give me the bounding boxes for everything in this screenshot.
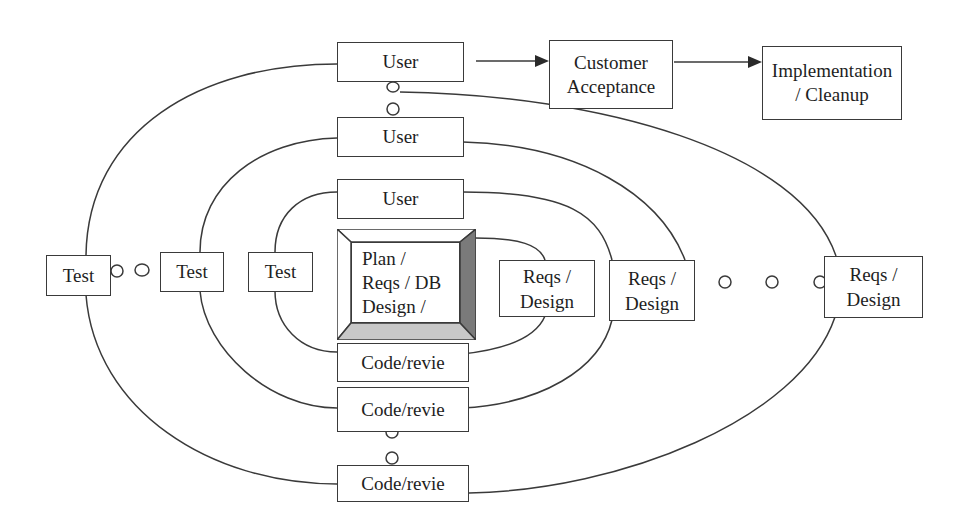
code-review-label: Code/revie bbox=[361, 473, 444, 495]
test-box-inner: Test bbox=[248, 252, 313, 292]
code-review-box-middle: Code/revie bbox=[337, 387, 469, 432]
user-box-middle: User bbox=[337, 117, 464, 157]
implementation-cleanup-label: Implementation / Cleanup bbox=[772, 59, 892, 107]
test-label: Test bbox=[265, 261, 296, 283]
customer-acceptance-label: Customer Acceptance bbox=[567, 51, 656, 99]
plan-reqs-db-design-core-box: Plan / Reqs / DB Design / bbox=[337, 229, 476, 340]
test-label: Test bbox=[176, 261, 207, 283]
implementation-cleanup-box: Implementation / Cleanup bbox=[762, 46, 902, 120]
code-review-box-outer: Code/revie bbox=[337, 465, 469, 502]
reqs-design-box-outer: Reqs / Design bbox=[824, 256, 923, 318]
reqs-design-box-inner: Reqs / Design bbox=[499, 260, 595, 317]
test-box-middle: Test bbox=[160, 252, 224, 292]
test-label: Test bbox=[63, 265, 94, 287]
code-review-box-inner: Code/revie bbox=[337, 343, 469, 382]
core-label-area: Plan / Reqs / DB Design / bbox=[351, 242, 460, 323]
user-box-inner: User bbox=[337, 179, 464, 219]
code-review-label: Code/revie bbox=[361, 352, 444, 374]
reqs-design-label: Reqs / Design bbox=[520, 264, 574, 314]
reqs-design-label: Reqs / Design bbox=[625, 266, 679, 316]
customer-acceptance-box: Customer Acceptance bbox=[549, 40, 673, 109]
user-label: User bbox=[383, 126, 419, 148]
test-box-outer: Test bbox=[46, 255, 111, 296]
reqs-design-label: Reqs / Design bbox=[847, 262, 901, 312]
user-box-outer: User bbox=[337, 42, 464, 82]
reqs-design-box-middle: Reqs / Design bbox=[609, 260, 695, 321]
code-review-label: Code/revie bbox=[361, 399, 444, 421]
user-label: User bbox=[383, 188, 419, 210]
user-label: User bbox=[383, 51, 419, 73]
core-label: Plan / Reqs / DB Design / bbox=[362, 247, 441, 319]
